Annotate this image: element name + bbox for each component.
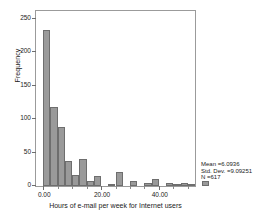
histogram-bar bbox=[94, 176, 101, 186]
stat-mean: Mean =6.0936 bbox=[201, 161, 252, 168]
y-tick: 50 bbox=[32, 152, 36, 153]
x-minor-tick bbox=[173, 186, 174, 189]
y-tick: 250 bbox=[32, 18, 36, 19]
y-tick-label: 100 bbox=[20, 114, 31, 121]
y-tick: 200 bbox=[32, 51, 36, 52]
histogram-bar bbox=[50, 107, 57, 186]
histogram-bar bbox=[65, 161, 72, 186]
histogram-bar bbox=[108, 184, 115, 186]
histogram-bar bbox=[43, 30, 50, 186]
x-tick: 20.00 bbox=[101, 186, 102, 190]
y-tick-label: 150 bbox=[20, 81, 31, 88]
plot-area: 050100150200250 0.0020.0040.00 bbox=[35, 10, 196, 187]
x-tick: 0.00 bbox=[43, 186, 44, 190]
histogram-bar bbox=[116, 172, 123, 186]
x-minor-tick bbox=[72, 186, 73, 189]
x-tick-label: 40.00 bbox=[152, 191, 168, 198]
statistics-annotation: Mean =6.0936 Std. Dev. =9.09251 N =617 bbox=[201, 161, 252, 181]
histogram-bar bbox=[202, 181, 209, 186]
histogram-chart: Frequency 050100150200250 0.0020.0040.00… bbox=[0, 0, 258, 217]
x-axis-title: Hours of e-mail per week for Internet us… bbox=[35, 202, 196, 209]
stat-std-dev: Std. Dev. =9.09251 bbox=[201, 168, 252, 175]
histogram-bar bbox=[152, 179, 159, 186]
histogram-bar bbox=[130, 181, 137, 186]
histogram-bar bbox=[166, 183, 173, 186]
histogram-bar bbox=[72, 175, 79, 186]
x-tick-label: 20.00 bbox=[94, 191, 110, 198]
x-minor-tick bbox=[144, 186, 145, 189]
y-axis-title: Frequency bbox=[14, 21, 21, 111]
y-tick-label: 250 bbox=[20, 14, 31, 21]
histogram-bar bbox=[173, 184, 180, 186]
x-minor-tick bbox=[130, 186, 131, 189]
y-tick-label: 200 bbox=[20, 47, 31, 54]
y-tick: 100 bbox=[32, 118, 36, 119]
bars-layer bbox=[36, 11, 195, 186]
stat-n: N =617 bbox=[201, 174, 252, 181]
y-tick-label: 0 bbox=[27, 181, 31, 188]
y-tick: 150 bbox=[32, 85, 36, 86]
histogram-bar bbox=[87, 181, 94, 186]
x-minor-tick bbox=[188, 186, 189, 189]
y-tick: 0 bbox=[32, 185, 36, 186]
histogram-bar bbox=[79, 159, 86, 186]
histogram-bar bbox=[188, 184, 195, 186]
x-tick: 40.00 bbox=[159, 186, 160, 190]
histogram-bar bbox=[144, 183, 151, 186]
x-minor-tick bbox=[87, 186, 88, 189]
x-tick-label: 0.00 bbox=[38, 191, 51, 198]
x-minor-tick bbox=[116, 186, 117, 189]
y-tick-label: 50 bbox=[24, 148, 31, 155]
histogram-bar bbox=[181, 183, 188, 186]
x-minor-tick bbox=[58, 186, 59, 189]
histogram-bar bbox=[58, 127, 65, 186]
